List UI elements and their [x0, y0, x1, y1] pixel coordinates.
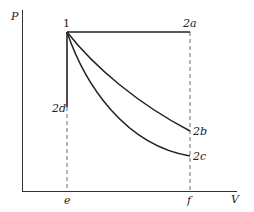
- x-axis-label: V: [231, 193, 240, 206]
- volume-e-label: e: [64, 194, 71, 207]
- point-2a-label: 2a: [182, 17, 197, 30]
- process-1-2b: [67, 32, 190, 131]
- point-2b-label: 2b: [192, 125, 207, 138]
- point-1-label: 1: [63, 17, 70, 30]
- point-2c-label: 2c: [192, 150, 206, 163]
- y-axis-label: P: [10, 10, 19, 23]
- pv-diagram: P V 1 2a 2b 2c 2d e f: [0, 0, 254, 212]
- point-2d-label: 2d: [51, 102, 66, 115]
- volume-f-label: f: [186, 194, 193, 207]
- process-1-2c: [67, 32, 190, 156]
